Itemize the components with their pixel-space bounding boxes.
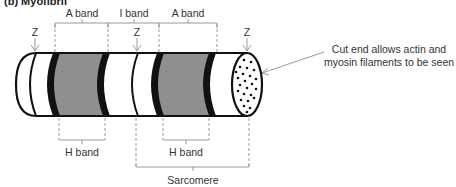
- sarcomere-bracket: [136, 118, 249, 171]
- label-sarcomere: Sarcomere: [167, 175, 218, 186]
- label-h-band-2: H band: [169, 147, 203, 158]
- label-i-band: I band: [119, 8, 148, 19]
- label-z-2: Z: [134, 27, 140, 38]
- label-z-3: Z: [244, 27, 250, 38]
- myofibril-diagram: (b) Myofibril: [0, 0, 456, 187]
- label-z-1: Z: [32, 27, 38, 38]
- z-line-arrows: [31, 38, 251, 51]
- cut-end-pointer: [262, 52, 324, 73]
- cylinder-bands: [0, 50, 260, 120]
- cut-end-note: Cut end allows actin and myosin filament…: [322, 43, 456, 69]
- cut-end-ellipse: [232, 53, 262, 116]
- label-a-band-1: A band: [66, 8, 99, 19]
- label-a-band-2: A band: [172, 8, 205, 19]
- label-h-band-1: H band: [65, 147, 99, 158]
- myofibril-illustration: [0, 0, 456, 187]
- h-band-brackets: [59, 118, 209, 144]
